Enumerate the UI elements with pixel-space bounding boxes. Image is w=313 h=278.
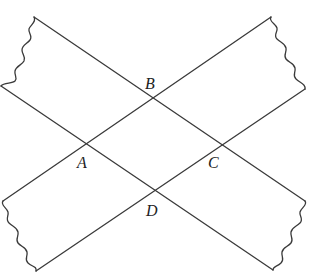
torn-edge-top-right (270, 17, 305, 89)
ascending-strip-lower-edge (36, 89, 305, 271)
descending-strip-upper-edge (34, 17, 305, 201)
point-label-c: C (208, 155, 219, 171)
torn-edge-bottom-left (2, 201, 36, 271)
torn-edge-bottom-right (273, 201, 306, 270)
point-label-a: A (77, 155, 87, 171)
descending-strip-lower-edge (1, 86, 273, 270)
torn-edge-top-left (1, 17, 35, 86)
diagram-svg (0, 0, 313, 278)
point-label-d: D (146, 203, 158, 219)
crossing-strips-diagram: B A C D (0, 0, 313, 278)
point-label-b: B (145, 76, 155, 92)
ascending-strip-upper-edge (3, 17, 271, 201)
